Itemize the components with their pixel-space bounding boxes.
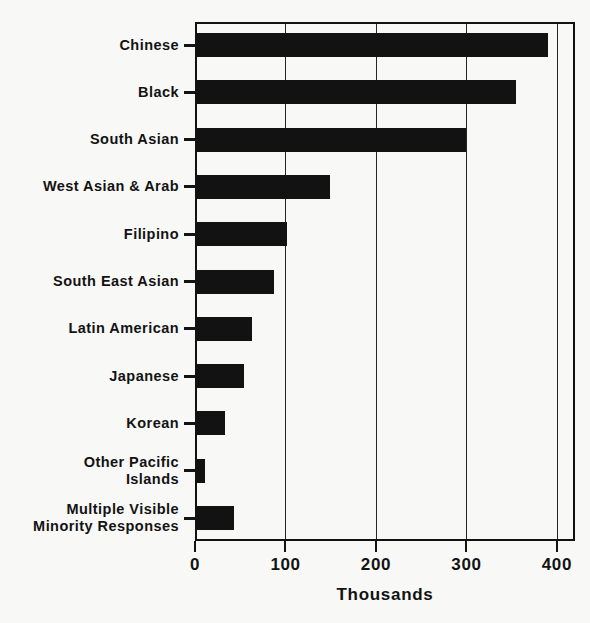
y-axis-tick-mark: [184, 327, 195, 330]
bar: [195, 33, 548, 57]
y-axis-tick-label: Latin American: [68, 320, 182, 337]
y-axis-tick-mark: [184, 375, 195, 378]
x-axis-tick-mark: [465, 541, 467, 552]
bar: [195, 411, 225, 435]
x-axis-ticks: 0100200300400: [195, 541, 575, 581]
x-axis-tick-mark: [284, 541, 286, 552]
x-axis-tick-label: 400: [542, 555, 572, 575]
x-axis-tick-label: 100: [270, 555, 300, 575]
bar: [195, 128, 466, 152]
y-axis-tick-mark: [184, 280, 195, 283]
y-axis-tick-label: West Asian & Arab: [43, 178, 182, 195]
y-axis-tick-label: Chinese: [119, 37, 182, 54]
x-axis-tick-label: 200: [361, 555, 391, 575]
bar: [195, 364, 244, 388]
y-axis-tick-mark: [184, 422, 195, 425]
bar: [195, 317, 252, 341]
y-axis-tick-label: Filipino: [124, 226, 182, 243]
y-axis-tick-mark: [184, 469, 195, 472]
y-axis-tick-mark: [184, 91, 195, 94]
x-axis-tick-mark: [556, 541, 558, 552]
bar: [195, 506, 234, 530]
x-axis-tick-label: 0: [190, 555, 200, 575]
y-axis-tick-label: Japanese: [109, 368, 182, 385]
x-axis-tick-mark: [375, 541, 377, 552]
y-axis-tick-label: Other Pacific Islands: [84, 454, 182, 488]
y-axis-category-labels: ChineseBlackSouth AsianWest Asian & Arab…: [0, 22, 195, 541]
x-axis-tick-label: 300: [451, 555, 481, 575]
bar: [195, 222, 287, 246]
y-axis-tick-label: South East Asian: [53, 273, 182, 290]
y-axis-tick-label: Multiple Visible Minority Responses: [33, 501, 182, 535]
y-axis-tick-mark: [184, 233, 195, 236]
chart-page: ChineseBlackSouth AsianWest Asian & Arab…: [0, 0, 590, 623]
bar: [195, 459, 205, 483]
bars-layer: [195, 22, 575, 541]
y-axis-tick-label: South Asian: [90, 131, 182, 148]
y-axis-tick-mark: [184, 185, 195, 188]
bar: [195, 270, 274, 294]
x-axis-title: Thousands: [195, 585, 575, 605]
x-axis-tick-mark: [194, 541, 196, 552]
y-axis-tick-label: Black: [138, 84, 182, 101]
bar: [195, 175, 330, 199]
y-axis-tick-mark: [184, 44, 195, 47]
y-axis-tick-mark: [184, 517, 195, 520]
y-axis-tick-label: Korean: [126, 415, 182, 432]
bar: [195, 80, 516, 104]
y-axis-tick-mark: [184, 138, 195, 141]
